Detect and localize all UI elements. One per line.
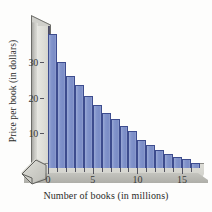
x-minor-tick-mark — [102, 168, 103, 172]
bar — [164, 154, 173, 168]
bar — [155, 150, 164, 168]
bar-series — [48, 20, 200, 168]
bar — [57, 62, 66, 168]
bar — [84, 96, 93, 168]
bar — [48, 34, 57, 168]
x-minor-tick-mark — [146, 168, 147, 172]
x-tick-label: 0 — [46, 174, 51, 185]
bar — [93, 105, 102, 168]
y-axis-title: Price per book (in dollars) — [8, 31, 18, 151]
y-tick-mark — [40, 98, 44, 99]
bar — [75, 85, 84, 168]
x-axis-title: Number of books (in millions) — [0, 190, 212, 201]
x-minor-tick-mark — [84, 168, 85, 172]
y-tick-mark — [40, 62, 44, 63]
bar — [102, 113, 111, 168]
x-tick-label: 15 — [177, 174, 187, 185]
x-minor-tick-mark — [155, 168, 156, 172]
x-tick-label: 5 — [90, 174, 95, 185]
y-tick-label: 30 — [28, 57, 38, 68]
bar — [120, 126, 129, 168]
x-axis: 051015 — [48, 168, 202, 190]
bar — [111, 119, 120, 168]
x-minor-tick-mark — [75, 168, 76, 172]
bar — [66, 76, 75, 168]
bar — [137, 140, 146, 168]
x-minor-tick-mark — [173, 168, 174, 172]
x-minor-tick-mark — [128, 168, 129, 172]
bar — [128, 131, 137, 168]
bar — [146, 145, 155, 168]
bar — [173, 157, 182, 168]
y-tick-label: 10 — [28, 127, 38, 138]
chart-figure: 102030 051015 Price per book (in dollars… — [0, 0, 212, 212]
y-tick-label: 20 — [28, 92, 38, 103]
x-minor-tick-mark — [191, 168, 192, 172]
x-minor-tick-mark — [66, 168, 67, 172]
x-minor-tick-mark — [57, 168, 58, 172]
x-tick-label: 10 — [132, 174, 142, 185]
x-minor-tick-mark — [111, 168, 112, 172]
plot-area — [48, 20, 200, 168]
bar — [182, 159, 191, 168]
y-tick-mark — [40, 133, 44, 134]
x-minor-tick-mark — [120, 168, 121, 172]
x-minor-tick-mark — [164, 168, 165, 172]
